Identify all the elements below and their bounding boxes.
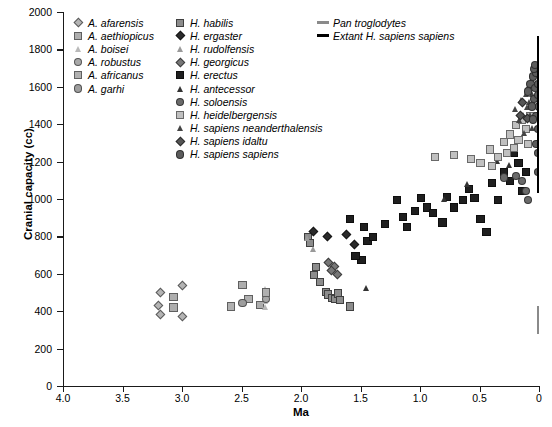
legend-item[interactable]: H. sapiens sapiens bbox=[173, 148, 323, 161]
legend-label: A. africanus bbox=[85, 69, 143, 81]
data-point bbox=[323, 232, 333, 242]
x-tick-label: 0.5 bbox=[460, 392, 500, 404]
legend-label: H. antecessor bbox=[187, 83, 255, 95]
legend-item[interactable]: A. boisei bbox=[71, 42, 154, 55]
triangle-open-icon bbox=[173, 46, 187, 52]
legend-column-australopithecus: A. afarensisA. aethiopicusA. boiseiA. ro… bbox=[71, 16, 154, 95]
triangle-open-icon bbox=[71, 46, 85, 52]
square-open-icon bbox=[71, 32, 85, 40]
chart-legend: A. afarensisA. aethiopicusA. boiseiA. ro… bbox=[63, 12, 539, 164]
y-tick-label: 1200 bbox=[2, 157, 52, 167]
data-point bbox=[227, 302, 235, 310]
diamond-icon bbox=[173, 138, 187, 145]
legend-item[interactable]: H. antecessor bbox=[173, 82, 323, 95]
line-icon bbox=[316, 21, 330, 24]
legend-column-reference: Pan troglodytesExtant H. sapiens sapiens bbox=[316, 16, 454, 42]
x-tick-label: 2.5 bbox=[222, 392, 262, 404]
y-tick-label: 600 bbox=[2, 269, 52, 279]
data-point bbox=[450, 203, 458, 211]
diamond-icon bbox=[173, 59, 187, 66]
data-point bbox=[154, 301, 164, 311]
legend-label: H. rudolfensis bbox=[187, 43, 254, 55]
legend-label: Pan troglodytes bbox=[330, 17, 406, 29]
legend-item[interactable]: H. heidelbergensis bbox=[173, 108, 323, 121]
data-point bbox=[342, 230, 352, 240]
data-point bbox=[336, 296, 344, 304]
legend-label: H. erectus bbox=[187, 69, 238, 81]
legend-item[interactable]: A. robustus bbox=[71, 56, 154, 69]
legend-label: H. habilis bbox=[187, 17, 233, 29]
diamond-filled-icon bbox=[173, 32, 187, 39]
data-point bbox=[262, 304, 268, 310]
data-point bbox=[169, 303, 177, 311]
legend-item[interactable]: H. rudolfensis bbox=[173, 42, 323, 55]
data-point bbox=[500, 173, 508, 181]
legend-label: H. georgicus bbox=[187, 56, 249, 68]
square-open-icon bbox=[173, 111, 187, 119]
data-point bbox=[464, 181, 470, 187]
x-tick-label: 0 bbox=[519, 392, 552, 404]
square-icon bbox=[173, 19, 187, 27]
data-point bbox=[312, 263, 320, 271]
data-point bbox=[441, 196, 447, 202]
x-tick-label: 3.0 bbox=[162, 392, 202, 404]
legend-label: A. garhi bbox=[85, 83, 124, 95]
y-tick-label: 800 bbox=[2, 231, 52, 241]
data-point bbox=[177, 280, 187, 290]
y-tick-label: 2000 bbox=[2, 7, 52, 17]
legend-item[interactable]: H. soloensis bbox=[173, 95, 323, 108]
cranial-capacity-scatter-figure: Cranial capacity (cc) Ma 020040060080010… bbox=[0, 0, 552, 427]
legend-item[interactable]: A. africanus bbox=[71, 69, 154, 82]
legend-item[interactable]: H. ergaster bbox=[173, 29, 323, 42]
line-icon bbox=[316, 34, 330, 37]
legend-item[interactable]: H. sapiens idaltu bbox=[173, 135, 323, 148]
x-tick-label: 3.5 bbox=[103, 392, 143, 404]
data-point bbox=[156, 309, 166, 319]
data-point bbox=[518, 177, 526, 185]
square-filled-icon bbox=[173, 71, 187, 79]
data-point bbox=[524, 196, 532, 204]
y-tick-label: 200 bbox=[2, 344, 52, 354]
data-point bbox=[399, 213, 407, 221]
data-point bbox=[156, 288, 166, 298]
circle-icon bbox=[173, 150, 187, 158]
data-point bbox=[411, 207, 419, 215]
legend-item[interactable]: H. erectus bbox=[173, 69, 323, 82]
circle-icon bbox=[71, 84, 85, 92]
x-axis-title: Ma bbox=[63, 406, 539, 418]
data-point bbox=[438, 218, 446, 226]
legend-item[interactable]: Extant H. sapiens sapiens bbox=[316, 29, 454, 42]
legend-item[interactable]: Pan troglodytes bbox=[316, 16, 454, 29]
legend-item[interactable]: A. garhi bbox=[71, 82, 154, 95]
data-point bbox=[262, 288, 270, 296]
data-point bbox=[522, 168, 530, 176]
y-tick-label: 0 bbox=[2, 381, 52, 391]
y-tick-label: 1800 bbox=[2, 44, 52, 54]
legend-label: A. afarensis bbox=[85, 17, 143, 29]
data-point bbox=[369, 233, 377, 241]
legend-item[interactable]: H. habilis bbox=[173, 16, 323, 29]
legend-label: A. aethiopicus bbox=[85, 30, 154, 42]
y-tick-label: 1400 bbox=[2, 119, 52, 129]
legend-item[interactable]: H. sapiens neanderthalensis bbox=[173, 122, 323, 135]
data-point bbox=[346, 302, 354, 310]
legend-label: H. sapiens neanderthalensis bbox=[187, 122, 323, 134]
legend-item[interactable]: A. afarensis bbox=[71, 16, 154, 29]
legend-label: H. ergaster bbox=[187, 30, 242, 42]
triangle-filled-icon bbox=[173, 125, 187, 131]
diamond-icon bbox=[71, 19, 85, 26]
legend-item[interactable]: H. georgicus bbox=[173, 56, 323, 69]
data-point bbox=[482, 228, 490, 236]
legend-label: H. sapiens idaltu bbox=[187, 135, 268, 147]
legend-item[interactable]: A. aethiopicus bbox=[71, 29, 154, 42]
data-point bbox=[316, 278, 324, 286]
y-tick-label: 1000 bbox=[2, 194, 52, 204]
data-point bbox=[169, 293, 177, 301]
triangle-filled-icon bbox=[173, 86, 187, 92]
legend-label: A. boisei bbox=[85, 43, 128, 55]
data-point bbox=[360, 223, 368, 231]
circle-icon bbox=[71, 58, 85, 66]
x-tick-label: 4.0 bbox=[43, 392, 83, 404]
data-point bbox=[350, 239, 360, 249]
data-point bbox=[238, 281, 246, 289]
